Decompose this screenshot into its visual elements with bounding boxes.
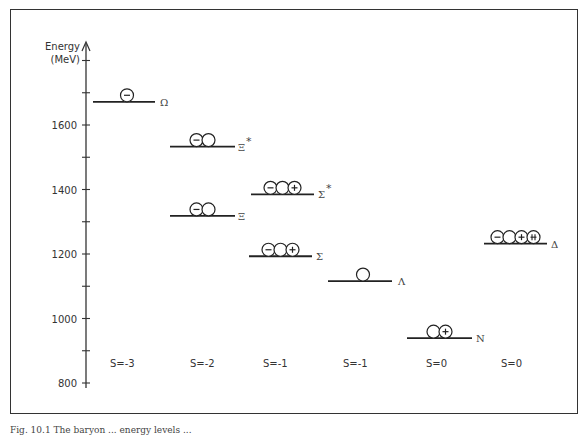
axis-tick-label: 1000 [52,314,77,325]
figure-caption: Fig. 10.1 The baryon ... energy levels .… [10,425,192,435]
level-label: Δ [551,239,558,250]
level-label: Ξ [238,142,245,153]
strangeness-label: S=0 [426,358,447,369]
axis-label-energy: Energy [45,41,80,52]
energy-level-Σ: Σ [249,243,323,262]
strangeness-label: S=-1 [263,358,288,369]
strangeness-label: S=-2 [190,358,215,369]
axis-tick-label: 1600 [52,120,77,131]
axis-tick-label: 800 [58,378,77,389]
quark-circle [276,181,289,194]
energy-axis: Energy(MeV)1600140012001000800 [45,41,90,389]
strangeness-labels: S=-3S=-2S=-1S=-1S=0S=0 [110,358,522,369]
energy-levels: ΩΞ*ΞΣ*ΣΛNΔ [93,89,558,344]
level-label: Σ [318,189,325,200]
energy-level-Λ: Λ [328,268,406,287]
energy-level-Σ-star: Σ* [251,181,332,200]
quark-circle [202,134,215,147]
quark-circle [357,268,370,281]
quark-circle [202,203,215,216]
axis-tick-label: 1200 [52,249,77,260]
axis-tick-label: 1400 [52,185,77,196]
energy-level-Δ: Δ [484,231,558,250]
level-label: Σ [316,251,323,262]
level-label-star: * [246,135,252,148]
strangeness-label: S=-3 [110,358,135,369]
strangeness-label: S=-1 [343,358,368,369]
quark-circle [427,325,440,338]
energy-level-Ξ-star: Ξ* [170,134,252,153]
level-label-star: * [326,182,332,195]
level-label: Λ [397,276,406,287]
strangeness-label: S=0 [501,358,522,369]
level-label: Ξ [238,211,245,222]
quark-circle [274,243,287,256]
level-label: Ω [160,97,168,108]
energy-level-Ξ: Ξ [170,203,245,222]
level-label: N [476,333,485,344]
energy-level-Ω: Ω [93,89,168,108]
energy-level-N: N [407,325,485,344]
quark-circle [503,231,516,244]
axis-label-unit: (MeV) [51,54,81,65]
